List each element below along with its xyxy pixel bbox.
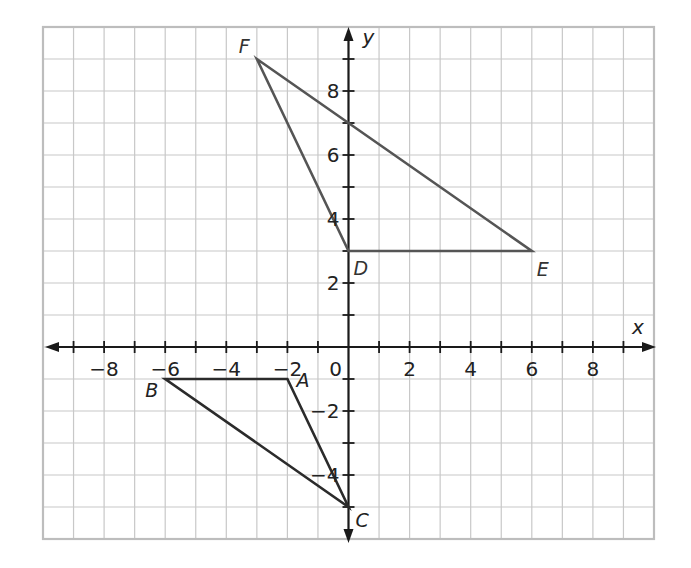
x-tick-label: 0 [329,357,342,381]
coordinate-plane: −8−6−4−2024688642−2−4xyABCDEF [0,0,691,568]
x-tick-label: −4 [212,357,241,381]
y-tick-label: 6 [327,143,340,167]
x-tick-label: 8 [587,357,600,381]
vertex-label-f: F [239,35,251,57]
vertex-label-b: B [145,379,158,401]
x-tick-label: −8 [89,357,118,381]
vertex-label-d: D [354,257,369,279]
vertex-label-e: E [537,258,549,280]
y-tick-label: −4 [310,463,339,487]
y-tick-label: 2 [327,271,340,295]
y-axis-label: y [362,25,376,49]
labels: −8−6−4−2024688642−2−4xyABCDEF [89,25,644,531]
x-tick-label: 2 [403,357,416,381]
vertex-label-a: A [294,369,309,391]
x-tick-label: 4 [464,357,477,381]
x-axis-label: x [631,315,644,339]
y-tick-label: 8 [327,79,340,103]
x-tick-label: 6 [525,357,538,381]
y-axis-up-arrow-icon [344,27,354,41]
y-tick-label: 4 [327,207,340,231]
x-axis-left-arrow-icon [45,342,59,352]
vertex-label-c: C [356,509,370,531]
y-tick-label: −2 [310,399,339,423]
y-axis-down-arrow-icon [344,529,354,543]
x-tick-label: −6 [150,357,179,381]
axes [45,27,656,543]
